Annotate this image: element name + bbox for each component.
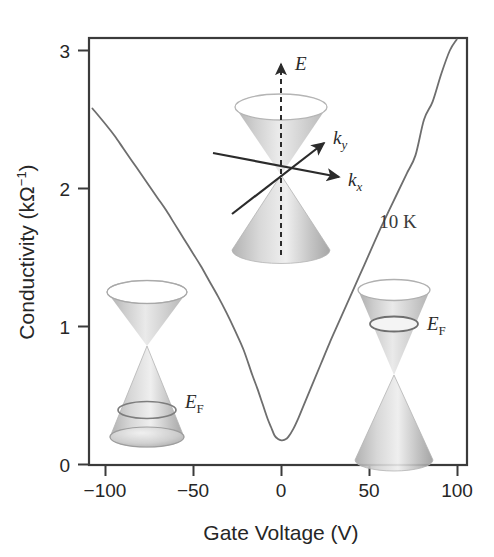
y-axis-title-main: Conductivity (k [15,201,38,339]
y-axis-unit-exponent: −1 [14,171,29,186]
y-tick-marks [78,51,89,465]
svg-text:Conductivity (kΩ−1): Conductivity (kΩ−1) [14,164,38,339]
kx-axis-label: kx [348,169,362,194]
right-cone-lower [355,375,433,471]
y-axis-title-close: ) [15,164,38,171]
x-tick-label-0: 0 [276,480,287,501]
dirac-cone-inset-center: E ky kx [213,53,362,263]
x-axis: −100 −50 0 50 100 Gate Voltage (V) [84,465,473,544]
x-tick-label-minus50: −50 [177,480,209,501]
x-axis-title: Gate Voltage (V) [203,521,358,544]
energy-axis-label: E [294,53,307,74]
y-axis-title: Conductivity (kΩ−1) [14,164,38,339]
left-fermi-symbol: E [184,391,197,412]
right-fermi-level-ring [370,317,418,332]
y-tick-label-3: 3 [59,41,70,62]
left-fermi-subscript: F [197,401,204,416]
y-tick-label-0: 0 [59,455,70,476]
y-axis: 3 2 1 0 Conductivity (kΩ−1) [14,41,89,476]
right-fermi-subscript: F [439,323,446,338]
right-fermi-label: EF [426,313,446,338]
kx-axis-subscript: x [355,179,362,194]
y-tick-label-2: 2 [59,179,70,200]
ky-axis-label: ky [333,127,347,152]
graphene-conductivity-figure: 3 2 1 0 Conductivity (kΩ−1) −100 −50 0 5… [0,0,494,557]
x-tick-label-50: 50 [358,480,379,501]
right-fermi-symbol: E [426,313,439,334]
dirac-cone-inset-left: EF [107,281,204,448]
dirac-cone-inset-right: EF [355,280,446,472]
y-axis-unit-omega: Ω [15,186,38,202]
left-cone-upper [107,281,187,347]
temperature-annotation: 10 K [379,211,417,232]
plot-canvas: 3 2 1 0 Conductivity (kΩ−1) −100 −50 0 5… [0,0,494,557]
ky-axis-subscript: y [339,137,347,152]
left-cone-lower [110,346,184,447]
left-fermi-label: EF [184,391,204,416]
x-tick-label-100: 100 [441,480,473,501]
y-tick-label-1: 1 [59,317,70,338]
x-tick-label-minus100: −100 [84,480,127,501]
